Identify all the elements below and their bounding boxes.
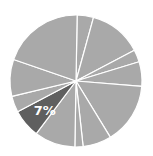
pie-slices [10,15,142,147]
pie-chart: 7% [0,0,153,156]
highlight-slice-label: 7% [34,103,56,118]
